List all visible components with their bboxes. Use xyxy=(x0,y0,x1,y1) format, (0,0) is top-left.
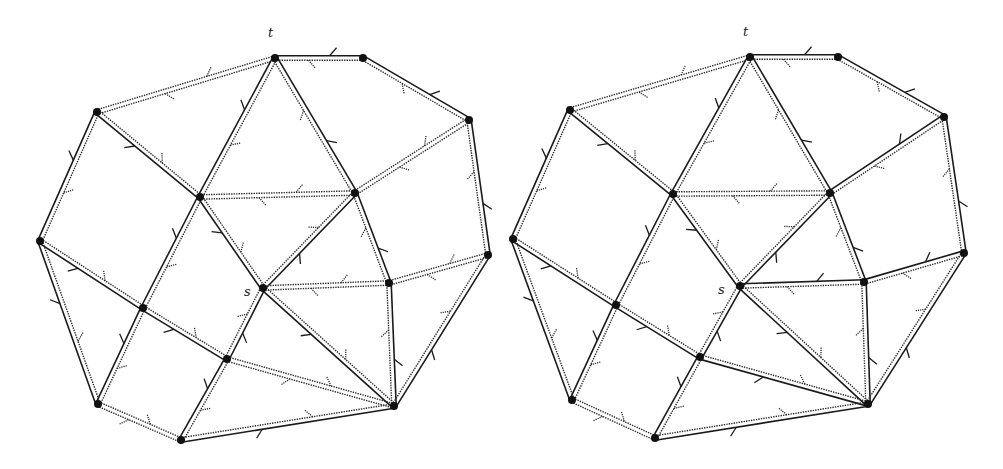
edge xyxy=(263,274,389,296)
node-h xyxy=(385,279,393,287)
edge xyxy=(226,357,394,408)
edge xyxy=(570,304,618,401)
edge xyxy=(38,240,100,404)
edge xyxy=(837,55,945,119)
node-c xyxy=(93,108,101,116)
edge xyxy=(181,404,395,442)
edge xyxy=(750,47,838,67)
node-b xyxy=(465,116,473,124)
node-k xyxy=(568,396,576,404)
node-j xyxy=(696,353,704,361)
diagram-canvas: ts ts xyxy=(0,0,1003,469)
edge xyxy=(699,355,868,406)
edge xyxy=(38,111,99,242)
edge xyxy=(739,284,870,405)
node-d xyxy=(36,237,44,245)
edge xyxy=(569,108,675,195)
edge xyxy=(673,183,830,204)
edge xyxy=(942,117,968,254)
node-m xyxy=(864,400,872,408)
edge xyxy=(353,192,391,284)
node-f xyxy=(826,189,834,197)
node-j xyxy=(223,355,231,363)
node-e xyxy=(669,190,677,198)
edge xyxy=(96,307,145,405)
node-t xyxy=(271,54,279,62)
node-e xyxy=(196,193,204,201)
edge xyxy=(671,56,752,195)
edge xyxy=(96,56,275,114)
edge xyxy=(381,283,403,406)
node-t xyxy=(746,53,754,61)
node-h xyxy=(860,278,868,286)
node-a xyxy=(359,54,367,62)
node-d xyxy=(509,235,517,243)
edge xyxy=(198,57,277,198)
node-c xyxy=(566,106,574,114)
edge xyxy=(856,282,877,404)
edge xyxy=(179,358,229,441)
node-k xyxy=(94,400,102,408)
edge xyxy=(738,191,831,287)
edge xyxy=(571,398,656,440)
edge xyxy=(392,254,490,407)
edge xyxy=(671,193,742,288)
node-i xyxy=(612,301,620,309)
node-g xyxy=(960,249,968,257)
edge xyxy=(273,57,357,194)
node-label-t: t xyxy=(743,24,749,39)
node-l xyxy=(177,436,185,444)
edge xyxy=(511,238,574,401)
left-graph-panel: ts xyxy=(36,25,492,444)
edge xyxy=(655,402,869,440)
node-label-t: t xyxy=(268,25,274,40)
edge xyxy=(275,48,363,68)
node-f xyxy=(351,189,359,197)
node-m xyxy=(390,402,398,410)
edge xyxy=(354,118,470,195)
edge xyxy=(511,109,572,240)
node-label-s: s xyxy=(718,282,725,297)
edge xyxy=(653,356,702,439)
graph-figure: ts ts t s t s xyxy=(0,0,1003,469)
edge xyxy=(828,192,866,283)
node-a xyxy=(834,53,842,61)
node-g xyxy=(484,251,492,259)
edge xyxy=(569,55,750,112)
node-label-s: s xyxy=(244,284,251,299)
edge xyxy=(388,253,488,285)
node-s xyxy=(736,282,744,290)
node-b xyxy=(940,113,948,121)
edge xyxy=(141,196,202,309)
edge xyxy=(615,303,701,359)
edge xyxy=(740,273,864,294)
edge xyxy=(614,193,675,306)
edge xyxy=(39,239,144,310)
edge xyxy=(198,196,265,290)
node-l xyxy=(651,434,659,442)
edge xyxy=(142,306,228,361)
edge xyxy=(261,191,356,289)
edge xyxy=(748,56,832,194)
edge xyxy=(200,184,355,205)
edge xyxy=(96,110,202,198)
node-s xyxy=(259,284,267,292)
edge xyxy=(97,402,182,442)
edge xyxy=(829,115,945,195)
right-graph-panel: ts xyxy=(509,24,968,442)
node-i xyxy=(139,304,147,312)
edge xyxy=(467,120,492,256)
edge xyxy=(362,56,470,122)
